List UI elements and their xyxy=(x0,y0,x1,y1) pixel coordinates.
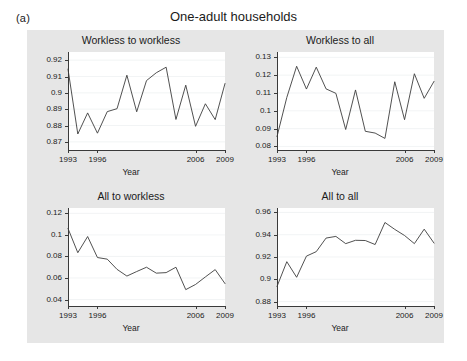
y-tick-mark xyxy=(274,75,277,76)
y-tick-mark xyxy=(65,278,68,279)
y-tick-mark xyxy=(65,60,68,61)
x-tick-label: 1996 xyxy=(291,156,321,164)
y-tick-mark xyxy=(274,279,277,280)
y-tick-mark xyxy=(65,142,68,143)
x-tick-mark xyxy=(68,150,69,153)
y-tick-mark xyxy=(65,93,68,94)
y-tick-label: 0.88 xyxy=(236,298,271,306)
x-tick-label: 2009 xyxy=(419,312,449,320)
y-tick-label: 0.08 xyxy=(236,142,271,150)
x-tick-label: 1996 xyxy=(291,312,321,320)
y-tick-label: 0.1 xyxy=(236,107,271,115)
subplot-workless-to-workless: Workless to workless 0.870.880.890.90.91… xyxy=(27,34,235,186)
x-axis-title: Year xyxy=(27,323,235,333)
x-tick-mark xyxy=(97,150,98,153)
data-line xyxy=(277,222,434,286)
x-tick-mark xyxy=(306,306,307,309)
figure-one-adult-households: (a) One-adult households Workless to wor… xyxy=(0,0,467,361)
data-line xyxy=(68,228,225,289)
x-axis xyxy=(68,306,225,307)
x-axis xyxy=(277,150,434,151)
gridlines-group xyxy=(277,212,434,301)
y-tick-mark xyxy=(65,300,68,301)
y-tick-label: 0.92 xyxy=(27,56,62,64)
y-tick-label: 0.91 xyxy=(27,73,62,81)
x-axis-title: Year xyxy=(27,167,235,177)
x-tick-mark xyxy=(225,306,226,309)
y-axis xyxy=(68,208,69,306)
x-tick-label: 2006 xyxy=(181,156,211,164)
x-tick-label: 2006 xyxy=(390,312,420,320)
y-tick-mark xyxy=(65,109,68,110)
x-axis xyxy=(277,306,434,307)
y-tick-mark xyxy=(65,213,68,214)
x-tick-mark xyxy=(405,150,406,153)
y-tick-label: 0.1 xyxy=(27,231,62,239)
data-line xyxy=(277,66,434,138)
y-tick-label: 0.06 xyxy=(27,274,62,282)
x-tick-mark xyxy=(196,306,197,309)
x-tick-mark xyxy=(68,306,69,309)
x-axis xyxy=(68,150,225,151)
x-tick-label: 1996 xyxy=(82,156,112,164)
x-tick-mark xyxy=(225,150,226,153)
y-tick-mark xyxy=(274,235,277,236)
y-tick-label: 0.13 xyxy=(236,53,271,61)
x-tick-mark xyxy=(277,306,278,309)
x-tick-label: 2009 xyxy=(419,156,449,164)
y-axis xyxy=(277,52,278,150)
x-tick-mark xyxy=(277,150,278,153)
x-axis-title: Year xyxy=(236,167,444,177)
x-tick-mark xyxy=(434,150,435,153)
y-tick-mark xyxy=(274,129,277,130)
y-tick-mark xyxy=(274,93,277,94)
y-tick-mark xyxy=(65,256,68,257)
x-tick-label: 1996 xyxy=(82,312,112,320)
y-tick-label: 0.09 xyxy=(236,125,271,133)
figure-title: One-adult households xyxy=(0,9,467,24)
y-tick-label: 0.12 xyxy=(236,71,271,79)
x-tick-mark xyxy=(405,306,406,309)
x-tick-label: 1993 xyxy=(53,156,83,164)
x-tick-mark xyxy=(196,150,197,153)
x-tick-label: 1993 xyxy=(53,312,83,320)
y-axis xyxy=(68,52,69,150)
x-tick-label: 1993 xyxy=(262,156,292,164)
subplot-all-to-workless: All to workless 0.040.060.080.10.12 1993… xyxy=(27,190,235,342)
y-tick-mark xyxy=(274,57,277,58)
y-tick-mark xyxy=(274,146,277,147)
y-tick-label: 0.04 xyxy=(27,296,62,304)
subplot-all-to-all: All to all 0.880.90.920.940.96 199319962… xyxy=(236,190,444,342)
y-tick-mark xyxy=(65,126,68,127)
y-axis xyxy=(277,208,278,306)
x-tick-mark xyxy=(306,150,307,153)
gridlines-group xyxy=(277,57,434,146)
y-tick-label: 0.89 xyxy=(27,105,62,113)
y-tick-mark xyxy=(274,257,277,258)
x-tick-label: 2006 xyxy=(181,312,211,320)
y-tick-label: 0.88 xyxy=(27,122,62,130)
y-tick-label: 0.94 xyxy=(236,231,271,239)
subplot-grid: Workless to workless 0.870.880.890.90.91… xyxy=(27,30,444,343)
y-tick-mark xyxy=(274,212,277,213)
x-tick-mark xyxy=(434,306,435,309)
x-tick-label: 2006 xyxy=(390,156,420,164)
y-tick-label: 0.12 xyxy=(27,209,62,217)
y-tick-mark xyxy=(65,235,68,236)
data-line xyxy=(68,67,225,134)
subplot-workless-to-all: Workless to all 0.080.090.10.110.120.13 … xyxy=(236,34,444,186)
y-tick-label: 0.87 xyxy=(27,138,62,146)
gridlines-group xyxy=(68,213,225,299)
y-tick-mark xyxy=(274,111,277,112)
y-tick-label: 0.9 xyxy=(27,89,62,97)
y-tick-label: 0.9 xyxy=(236,275,271,283)
x-tick-label: 1993 xyxy=(262,312,292,320)
x-tick-mark xyxy=(97,306,98,309)
y-tick-mark xyxy=(274,302,277,303)
y-tick-label: 0.96 xyxy=(236,208,271,216)
y-tick-label: 0.92 xyxy=(236,253,271,261)
gridlines-group xyxy=(68,60,225,142)
x-axis-title: Year xyxy=(236,323,444,333)
y-tick-label: 0.11 xyxy=(236,89,271,97)
y-tick-mark xyxy=(65,77,68,78)
